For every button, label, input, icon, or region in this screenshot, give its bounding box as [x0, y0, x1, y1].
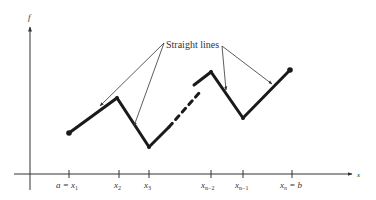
y-axis-label: f: [28, 12, 32, 22]
tick-label-xn: xn = b: [279, 180, 303, 191]
x-axis-label: x: [356, 171, 361, 179]
node-points: [66, 67, 293, 149]
tick-label-x1: a = x1: [56, 180, 78, 191]
piecewise-linear-curve: [69, 70, 290, 147]
tick-label-x3: x3: [143, 180, 151, 191]
tick-label-xn-2: xn−2: [200, 180, 214, 191]
annotation-straight-lines: Straight lines: [166, 39, 219, 50]
tick-label-xn-1: xn−1: [234, 180, 248, 191]
tick-label-x2: x2: [113, 180, 121, 191]
piecewise-linear-diagram: f x a = x1 x2 x3 xn−2 xn−1 xn = b Straig…: [0, 0, 376, 200]
